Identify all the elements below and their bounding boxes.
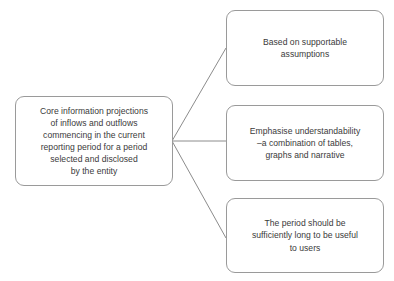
connector-root-to-branch-2: [172, 141, 226, 238]
branch-node-label: Emphasise understandability –a combinati…: [227, 125, 383, 161]
diagram-canvas: Core information projections of inflows …: [0, 0, 394, 281]
root-node: Core information projections of inflows …: [15, 96, 173, 186]
branch-node-supportable-assumptions: Based on supportable assumptions: [226, 10, 384, 86]
connector-root-to-branch-0: [172, 48, 226, 141]
branch-node-label: The period should be sufficiently long t…: [227, 217, 383, 253]
branch-node-understandability: Emphasise understandability –a combinati…: [226, 105, 384, 181]
root-node-label: Core information projections of inflows …: [16, 105, 172, 178]
branch-node-period-length: The period should be sufficiently long t…: [226, 198, 384, 273]
branch-node-label: Based on supportable assumptions: [227, 36, 383, 60]
